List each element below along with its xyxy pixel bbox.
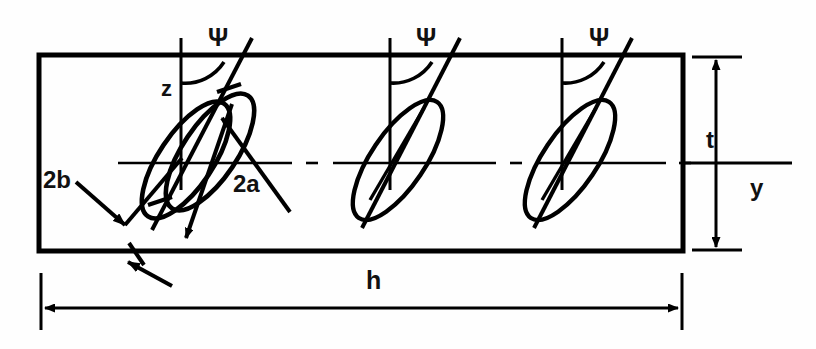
z-axis-label: z: [161, 78, 172, 100]
minor-axis-arrow-1: [76, 182, 125, 225]
psi-label-3: Ψ: [589, 25, 609, 50]
major-axis-label: 2a: [233, 172, 260, 196]
width-dimension: [41, 273, 682, 330]
psi-label-1: Ψ: [208, 25, 228, 50]
thickness-dimension: [692, 57, 742, 250]
y-axis-label: y: [750, 176, 763, 200]
crack-assembly-2: [336, 38, 460, 233]
angle-arc-3: [562, 62, 604, 83]
angle-arc-2: [390, 62, 432, 83]
psi-label-2: Ψ: [416, 25, 436, 50]
plate-outline: [39, 55, 683, 251]
minor-axis-arrow-1b: [128, 262, 172, 286]
angle-arc-1: [181, 62, 224, 83]
thickness-label: t: [706, 128, 714, 152]
figure-canvas: Ψ Ψ Ψ z y t h 2a 2b: [0, 0, 816, 349]
width-label: h: [366, 268, 381, 293]
crack-assembly-3: [508, 38, 632, 233]
diagram-vector-layer: [0, 0, 816, 349]
minor-axis-label: 2b: [43, 168, 71, 192]
